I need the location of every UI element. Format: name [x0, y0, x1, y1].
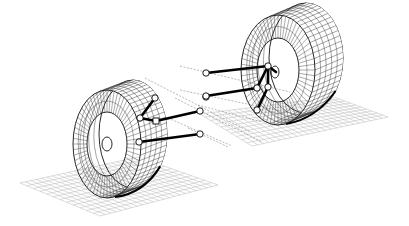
suspension-link — [206, 66, 268, 73]
joint-left-upright-top — [137, 115, 143, 121]
joint-left-upright-bottom — [136, 139, 142, 145]
joint-right-upright-mid-b — [265, 84, 271, 90]
knuckle-marker-icon — [153, 118, 159, 124]
ground-grids — [20, 97, 388, 216]
joint-left-upper-knuckle — [152, 95, 158, 101]
axis-lines — [145, 66, 300, 147]
joint-right-upright-top — [265, 63, 271, 69]
joint-right-lower-inboard — [203, 93, 209, 99]
suspension-diagram — [0, 0, 409, 226]
hub-icon — [102, 137, 112, 151]
joint-left-lower-inboard — [197, 131, 203, 137]
joint-right-upright-bottom — [254, 107, 260, 113]
diagram-canvas — [0, 0, 409, 226]
joint-left-upper-inboard — [197, 108, 203, 114]
joint-right-upright-mid-a — [254, 85, 260, 91]
wheels — [73, 3, 343, 198]
axis-line — [188, 128, 228, 147]
joint-right-upper-inboard — [203, 70, 209, 76]
